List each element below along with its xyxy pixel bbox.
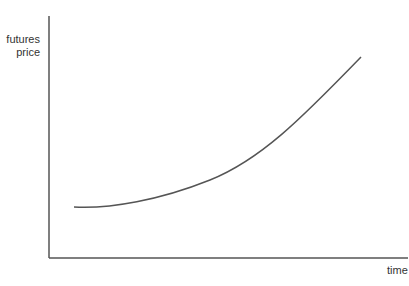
y-axis-label: futures price xyxy=(6,33,40,59)
futures-price-curve xyxy=(74,57,361,207)
y-axis-label-line-2: price xyxy=(6,46,40,59)
x-axis-label: time xyxy=(387,264,408,276)
chart-canvas xyxy=(0,0,409,286)
y-axis-label-line-1: futures xyxy=(6,33,40,46)
